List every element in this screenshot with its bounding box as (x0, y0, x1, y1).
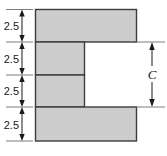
arrowhead-up-3 (19, 75, 24, 82)
right-c-dimension: C (132, 42, 165, 107)
dimension-label-segment-1: 2.5 (4, 20, 19, 32)
arrowhead-down-1 (19, 35, 24, 42)
web-lower-block (36, 75, 85, 107)
arrowhead-down-2 (19, 68, 24, 75)
technical-diagram-figure: 2.5 2.5 2.5 2.5 C (0, 0, 167, 156)
left-dimension-chain: 2.5 2.5 2.5 2.5 (4, 10, 33, 142)
c-channel-shape (36, 10, 137, 142)
dimension-label-segment-2: 2.5 (4, 53, 19, 65)
bottom-flange-block (36, 107, 137, 141)
c-arrowhead-up (149, 42, 154, 50)
arrowhead-down-4 (19, 134, 24, 141)
c-dimension-label: C (148, 67, 157, 82)
dimension-label-segment-4: 2.5 (4, 119, 19, 131)
arrowhead-up-1 (19, 10, 24, 17)
arrowhead-down-3 (19, 100, 24, 107)
top-flange-block (36, 10, 137, 43)
web-upper-block (36, 42, 85, 75)
arrowhead-up-2 (19, 42, 24, 49)
dimension-label-segment-3: 2.5 (4, 85, 19, 97)
diagram-canvas: 2.5 2.5 2.5 2.5 C (0, 0, 167, 156)
c-arrowhead-down (149, 99, 154, 107)
arrowhead-up-4 (19, 107, 24, 114)
